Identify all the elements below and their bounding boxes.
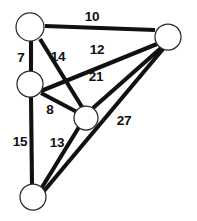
edge-weight-label-10: 10 [85,10,100,24]
node-middle-left [17,71,43,97]
node-top-right [155,24,181,50]
node-top-left [16,13,44,41]
graph-canvas [0,0,197,221]
edge-weight-label-21: 21 [89,70,104,84]
edge-middle-left-bottom [31,97,32,184]
edge-weight-label-27: 27 [117,114,132,128]
node-bottom [20,184,46,210]
edge-top-left-top-right [45,26,155,30]
edge-weight-label-7: 7 [17,51,24,65]
edge-weight-label-8: 8 [46,103,53,117]
edge-weight-label-15: 15 [13,135,28,149]
edge-weight-label-14: 14 [51,50,66,64]
edge-weight-label-12: 12 [90,43,105,57]
weighted-graph-figure: 10 7 14 12 21 8 15 13 27 [0,0,197,221]
node-center [74,106,98,130]
edge-weight-label-13: 13 [50,136,65,150]
